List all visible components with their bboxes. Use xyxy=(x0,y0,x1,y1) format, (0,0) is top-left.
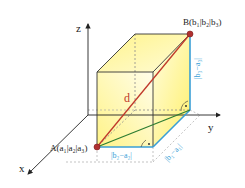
y-axis-label: y xyxy=(208,121,214,133)
edge-width-label: |b₂−a₂| xyxy=(111,151,132,160)
point-b-marker xyxy=(187,31,193,37)
z-axis-label: z xyxy=(76,22,81,34)
diagram-canvas: z y x d B(b₁|b₂|b₃) A(a₁|a₂|a₃) |b₂−a₂| … xyxy=(0,0,245,188)
point-a-marker xyxy=(94,144,100,150)
right-angle-dot-2 xyxy=(185,105,187,107)
x-axis-label: x xyxy=(19,162,25,174)
right-angle-dot-1 xyxy=(148,143,150,145)
edge-height-label: |b₃−a₃| xyxy=(193,58,202,79)
cuboid-diagram: z y x d B(b₁|b₂|b₃) A(a₁|a₂|a₃) |b₂−a₂| … xyxy=(0,0,245,188)
edge-depth-label: |b₁−a₁| xyxy=(163,142,184,164)
distance-label-d: d xyxy=(124,91,130,105)
point-b-label: B(b₁|b₂|b₃) xyxy=(183,17,222,27)
point-a-label: A(a₁|a₂|a₃) xyxy=(50,143,88,153)
